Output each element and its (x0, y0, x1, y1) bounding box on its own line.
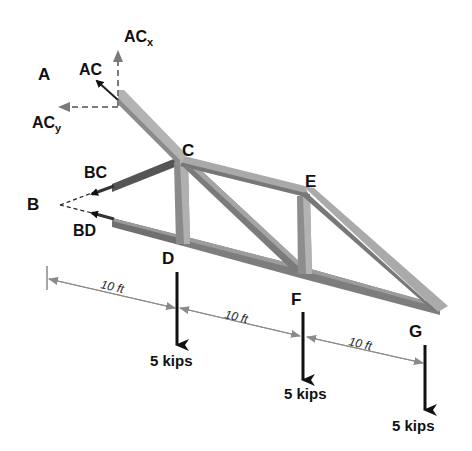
node-label-b: B (27, 195, 39, 214)
member-bc (112, 158, 180, 192)
force-label-bc: BC (84, 164, 108, 181)
force-b-group (60, 186, 114, 219)
force-label-acy: ACy (32, 114, 62, 134)
force-label-ac: AC (79, 61, 103, 78)
force-ac-arrow (97, 81, 118, 100)
force-label-acx: ACx (124, 28, 154, 48)
load-label-d: 5 kips (150, 352, 193, 369)
dimension-label-3: 10 ft (347, 334, 374, 353)
load-label-f: 5 kips (284, 385, 327, 402)
force-labels: AC ACx ACy BC BD (32, 28, 154, 239)
node-label-a: A (38, 65, 50, 84)
node-label-g: G (409, 322, 422, 341)
dimension-label-1: 10 ft (99, 277, 126, 296)
load-label-g: 5 kips (392, 417, 435, 434)
dashed-b-bc (60, 193, 92, 205)
dimension-label-2: 10 ft (223, 307, 250, 326)
node-label-d: D (162, 249, 174, 268)
dimension-lines: 10 ft 10 ft 10 ft (47, 266, 423, 363)
node-label-c: C (182, 141, 194, 160)
truss-members (112, 90, 448, 315)
force-bd-arrow (92, 213, 114, 219)
node-label-e: E (305, 172, 316, 191)
force-bc-arrow (92, 186, 114, 194)
truss-diagram: 10 ft 10 ft 10 ft 5 kips 5 kips 5 kips A… (0, 0, 472, 451)
node-label-f: F (291, 290, 301, 309)
force-label-bd: BD (73, 222, 96, 239)
member-ac (118, 90, 186, 166)
dashed-b-bd (60, 205, 92, 213)
